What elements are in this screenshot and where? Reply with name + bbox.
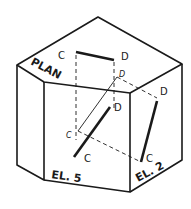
left-face [17,65,44,180]
plan-line-cd [76,52,114,60]
point-proj-c: C [66,131,72,140]
point-proj-d: D [119,70,125,79]
point-el5-c: C [84,153,91,164]
point-el2-c: C [146,153,153,164]
top-face-plan [17,17,182,93]
point-plan-c: C [58,50,65,61]
point-el5-d: D [114,102,122,113]
label-el5: EL. 5 [51,168,83,185]
point-plan-d: D [121,51,129,62]
point-el2-d: D [160,86,168,97]
isometric-projection-diagram: PLAN EL. 5 EL. 2 C D D C D C D C [0,0,191,209]
